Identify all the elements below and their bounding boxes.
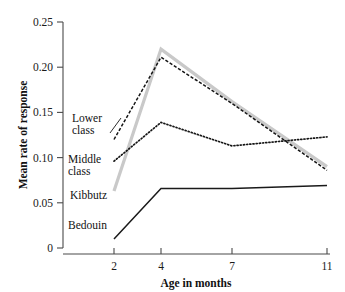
series-label-bedouin: Bedouin [68,219,107,231]
x-tick-label-2: 2 [111,260,117,272]
series-label-middle-class: Middle class [68,153,101,177]
y-tick-label-0.05: 0.05 [33,197,53,209]
y-tick-label-0.25: 0.25 [33,16,53,28]
series-label-middle-class-line1: Middle [68,153,101,165]
series-label-lower-class: Lower class [72,112,121,136]
y-tick-label-0.20: 0.20 [33,61,53,73]
x-tick-label-4: 4 [158,260,164,272]
series-label-lower-class-line1: Lower [72,112,102,124]
y-axis-title: Mean rate of response [17,81,30,190]
series-line-kibbutz [114,49,327,191]
series-line-lower-class [114,57,327,170]
series-line-middle-class [114,122,327,161]
y-tick-label-0.15: 0.15 [33,106,53,118]
series-label-bedouin-text: Bedouin [68,219,107,231]
series-label-kibbutz-text: Kibbutz [70,189,107,201]
chart-figure: 0.25 0.20 0.15 0.10 0.05 0 2 4 7 11 Age … [0,0,345,292]
y-axis-ticks [57,22,63,248]
x-tick-label-11: 11 [321,260,332,272]
x-axis-title: Age in months [161,277,232,290]
series-label-lower-class-line2: class [72,124,95,136]
y-tick-label-0: 0 [47,242,53,254]
series-label-middle-class-line2: class [68,165,91,177]
series-label-kibbutz: Kibbutz [70,189,107,201]
y-tick-label-0.10: 0.10 [33,152,53,164]
x-tick-label-7: 7 [229,260,235,272]
x-axis-ticks [114,248,327,254]
line-chart-canvas: 0.25 0.20 0.15 0.10 0.05 0 2 4 7 11 Age … [0,0,345,292]
series-line-bedouin [114,186,327,239]
